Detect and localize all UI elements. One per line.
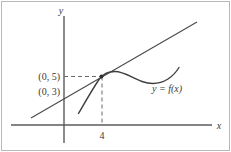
y-axis-label: y [58,5,64,16]
x-axis-label: x [216,120,222,131]
figure-frame: y x (0, 5) (0, 3) 4 y = f(x) [0,0,231,152]
x-tick-label-4: 4 [100,130,105,141]
graph-figure: y x (0, 5) (0, 3) 4 y = f(x) [0,0,231,152]
point-of-tangency-dot [100,75,104,79]
point-label-lower: (0, 3) [38,86,60,98]
point-label-upper: (0, 5) [38,71,60,83]
curve-label: y = f(x) [151,83,183,95]
figure-border [2,2,230,151]
